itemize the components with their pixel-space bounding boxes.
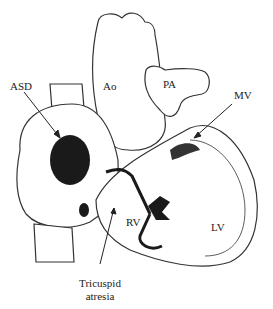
label-left-ventricle: LV [211,222,225,233]
label-tricuspid-atresia: Tricuspid atresia [68,277,132,303]
heart-diagram: ASD Ao PA MV RV LV Tricuspid atresia [0,0,273,309]
label-asd: ASD [10,81,32,92]
label-pulmonary-artery: PA [163,79,176,90]
label-mitral-valve: MV [234,90,252,101]
label-tricuspid-line1: Tricuspid [68,277,132,290]
heart-illustration [0,0,273,309]
label-right-ventricle: RV [126,217,140,228]
label-aorta: Ao [103,81,116,92]
label-tricuspid-line2: atresia [68,290,132,303]
inferior-vena-cava [34,224,74,262]
coronary-sinus [79,203,89,217]
asd-defect [50,135,90,185]
